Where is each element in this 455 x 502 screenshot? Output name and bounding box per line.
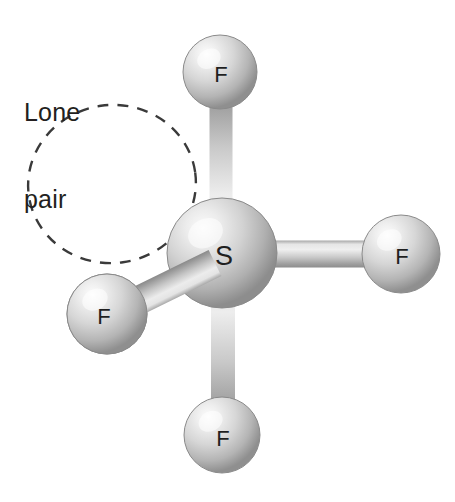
atom-label-f-right: F xyxy=(395,244,408,269)
atom-label-f-lower-left: F xyxy=(97,304,110,329)
atom-label-s-center: S xyxy=(215,241,233,271)
atom-f-right: F xyxy=(362,215,440,293)
atom-f-top: F xyxy=(183,35,257,109)
lone-pair-label-line2: pair xyxy=(24,185,80,214)
atom-f-bottom: F xyxy=(184,397,260,473)
lone-pair-label: Lone pair xyxy=(24,40,80,272)
atom-label-f-bottom: F xyxy=(216,426,229,451)
lone-pair-label-line1: Lone xyxy=(24,98,80,127)
atom-f-lower-left: F xyxy=(67,274,147,354)
atom-label-f-top: F xyxy=(214,62,227,87)
molecular-diagram-canvas: FFFF S F Lone pair xyxy=(0,0,455,502)
